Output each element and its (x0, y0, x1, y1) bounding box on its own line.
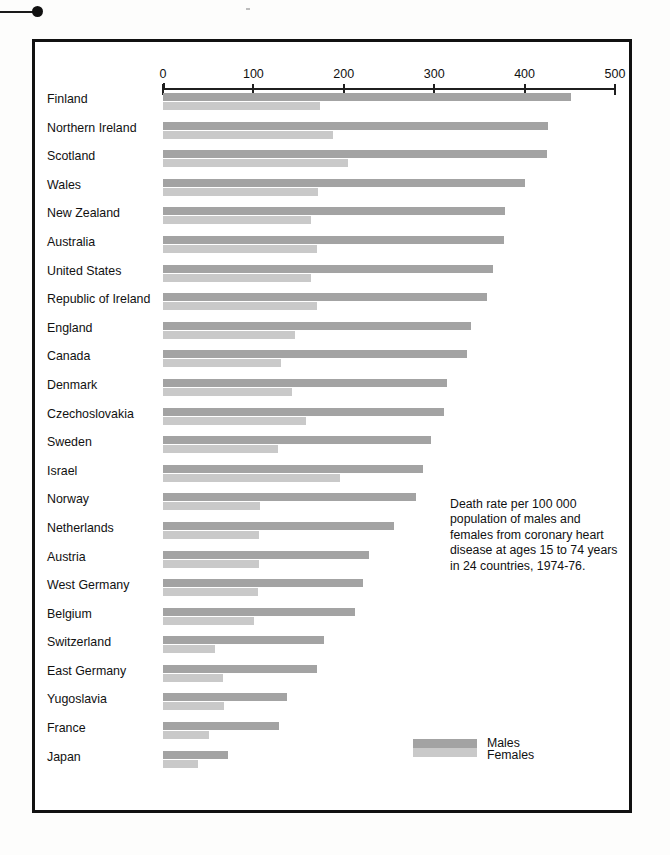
bar-males (163, 265, 493, 273)
bar-females (163, 560, 259, 568)
bar-females (163, 760, 198, 768)
bar-row: West Germany (35, 574, 629, 603)
bar-females (163, 531, 259, 539)
bar-males (163, 122, 548, 130)
bar-females (163, 731, 209, 739)
bar-females (163, 331, 295, 339)
bar-pair (163, 322, 615, 341)
bar-females (163, 474, 340, 482)
country-label: Japan (47, 750, 157, 764)
country-label: Austria (47, 550, 157, 564)
bar-row: United States (35, 260, 629, 289)
country-label: Republic of Ireland (47, 292, 157, 306)
bar-males (163, 579, 363, 587)
bar-males (163, 293, 487, 301)
bar-row: Republic of Ireland (35, 288, 629, 317)
bar-pair (163, 408, 615, 427)
bar-females (163, 274, 311, 282)
country-label: Israel (47, 464, 157, 478)
bar-females (163, 188, 318, 196)
figure-frame: 0100200300400500 FinlandNorthern Ireland… (32, 39, 632, 813)
bar-pair (163, 379, 615, 398)
bar-males (163, 322, 471, 330)
x-axis-tick-label: 100 (243, 68, 264, 81)
bar-row: Sweden (35, 431, 629, 460)
bar-row: Canada (35, 345, 629, 374)
bar-females (163, 588, 258, 596)
country-label: Finland (47, 92, 157, 106)
page-corner-rule (0, 11, 34, 13)
country-label: Australia (47, 235, 157, 249)
country-label: Wales (47, 178, 157, 192)
bar-pair (163, 93, 615, 112)
bar-males (163, 93, 571, 101)
bar-row: Finland (35, 88, 629, 117)
bar-pair (163, 265, 615, 284)
bar-row: Belgium (35, 603, 629, 632)
bar-row: New Zealand (35, 202, 629, 231)
bar-males (163, 751, 228, 759)
bar-row: Scotland (35, 145, 629, 174)
x-axis-tick-label: 0 (160, 68, 167, 81)
bar-row: Denmark (35, 374, 629, 403)
bar-males (163, 636, 324, 644)
country-label: Sweden (47, 435, 157, 449)
bar-males (163, 179, 525, 187)
bar-pair (163, 150, 615, 169)
x-axis-tick-label: 200 (333, 68, 354, 81)
bar-females (163, 131, 333, 139)
legend-swatch-males (413, 739, 477, 748)
bar-females (163, 102, 320, 110)
x-axis-tick-label: 300 (424, 68, 445, 81)
bar-pair (163, 436, 615, 455)
bar-pair (163, 693, 615, 712)
country-label: France (47, 721, 157, 735)
bar-row: Australia (35, 231, 629, 260)
bar-pair (163, 236, 615, 255)
bar-females (163, 445, 278, 453)
bar-females (163, 245, 317, 253)
bar-row: Yugoslavia (35, 688, 629, 717)
bar-males (163, 207, 505, 215)
country-label: East Germany (47, 664, 157, 678)
country-label: Czechoslovakia (47, 407, 157, 421)
bar-row: Israel (35, 460, 629, 489)
bar-pair (163, 636, 615, 655)
bar-row: England (35, 317, 629, 346)
bar-row: East Germany (35, 660, 629, 689)
bar-pair (163, 179, 615, 198)
bar-males (163, 465, 423, 473)
country-label: Northern Ireland (47, 121, 157, 135)
bar-males (163, 493, 416, 501)
bar-rows: FinlandNorthern IrelandScotlandWalesNew … (35, 88, 629, 774)
bar-pair (163, 293, 615, 312)
bar-pair (163, 579, 615, 598)
bar-males (163, 608, 355, 616)
country-label: Norway (47, 492, 157, 506)
country-label: Canada (47, 349, 157, 363)
bar-females (163, 617, 254, 625)
bar-females (163, 702, 224, 710)
bar-females (163, 159, 348, 167)
bar-pair (163, 608, 615, 627)
bar-males (163, 722, 279, 730)
bar-males (163, 350, 467, 358)
country-label: Belgium (47, 607, 157, 621)
country-label: United States (47, 264, 157, 278)
legend-label-females: Females (487, 749, 534, 761)
page-corner-dot (32, 6, 43, 17)
bar-females (163, 388, 292, 396)
bar-row: Switzerland (35, 631, 629, 660)
bar-males (163, 236, 504, 244)
country-label: Yugoslavia (47, 692, 157, 706)
country-label: New Zealand (47, 206, 157, 220)
country-label: Scotland (47, 149, 157, 163)
bar-females (163, 674, 223, 682)
bar-pair (163, 665, 615, 684)
legend-swatch-females (413, 748, 477, 757)
bar-pair (163, 207, 615, 226)
bar-females (163, 502, 260, 510)
country-label: Netherlands (47, 521, 157, 535)
bar-males (163, 665, 317, 673)
legend-swatches (413, 739, 477, 758)
